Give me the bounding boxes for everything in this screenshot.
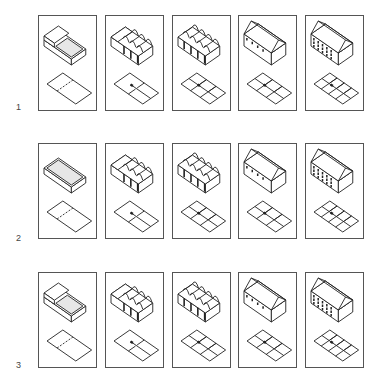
building-mass bbox=[244, 21, 286, 65]
isometric-building-drawing bbox=[39, 16, 96, 110]
diagram-panel-row2-stage2 bbox=[105, 143, 164, 239]
building-mass bbox=[44, 158, 86, 193]
diagram-panel-row1-stage3 bbox=[172, 15, 231, 111]
building-mass bbox=[178, 282, 220, 322]
building-mass bbox=[44, 26, 86, 65]
isometric-building-drawing bbox=[39, 273, 96, 367]
isometric-building-drawing bbox=[239, 144, 296, 238]
diagram-panel-row3-stage2 bbox=[105, 272, 164, 368]
diagram-panel-row1-stage1 bbox=[38, 15, 97, 111]
floor-plan bbox=[47, 201, 92, 232]
row-label-3: 3 bbox=[16, 360, 21, 370]
diagram-panel-row2-stage4 bbox=[238, 143, 297, 239]
floor-plan bbox=[314, 201, 359, 232]
row-label-1: 1 bbox=[16, 102, 21, 112]
diagram-panel-row1-stage4 bbox=[238, 15, 297, 111]
floor-plan bbox=[314, 73, 359, 104]
floor-plan bbox=[47, 330, 92, 361]
floor-plan bbox=[247, 201, 292, 232]
floor-plan bbox=[181, 330, 226, 361]
floor-plan bbox=[114, 330, 159, 361]
isometric-building-drawing bbox=[173, 16, 230, 110]
building-mass bbox=[111, 155, 153, 193]
building-mass bbox=[111, 27, 153, 65]
isometric-building-drawing bbox=[306, 144, 363, 238]
diagram-panel-row2-stage1 bbox=[38, 143, 97, 239]
floor-plan bbox=[247, 330, 292, 361]
building-mass bbox=[311, 21, 353, 65]
isometric-building-drawing bbox=[106, 16, 163, 110]
floor-plan bbox=[114, 201, 159, 232]
diagram-panel-row3-stage3 bbox=[172, 272, 231, 368]
building-mass bbox=[111, 284, 153, 322]
diagram-panel-row3-stage1 bbox=[38, 272, 97, 368]
isometric-building-drawing bbox=[173, 144, 230, 238]
building-mass bbox=[244, 149, 286, 193]
floor-plan bbox=[114, 73, 159, 104]
floor-plan bbox=[247, 73, 292, 104]
floor-plan bbox=[314, 330, 359, 361]
isometric-building-drawing bbox=[306, 16, 363, 110]
diagram-panel-row1-stage5 bbox=[305, 15, 364, 111]
isometric-building-drawing bbox=[106, 144, 163, 238]
row-label-2: 2 bbox=[16, 233, 21, 243]
building-mass bbox=[311, 149, 353, 193]
floor-plan bbox=[47, 73, 92, 104]
floor-plan bbox=[181, 73, 226, 104]
isometric-building-drawing bbox=[39, 144, 96, 238]
diagram-panel-row2-stage5 bbox=[305, 143, 364, 239]
diagram-panel-row2-stage3 bbox=[172, 143, 231, 239]
diagram-panel-row1-stage2 bbox=[105, 15, 164, 111]
isometric-building-drawing bbox=[239, 16, 296, 110]
building-mass bbox=[178, 153, 220, 193]
isometric-building-drawing bbox=[173, 273, 230, 367]
diagram-panel-row3-stage5 bbox=[305, 272, 364, 368]
isometric-building-drawing bbox=[239, 273, 296, 367]
building-mass bbox=[311, 278, 353, 322]
isometric-building-drawing bbox=[106, 273, 163, 367]
building-mass bbox=[178, 25, 220, 65]
building-mass bbox=[244, 278, 286, 322]
floor-plan bbox=[181, 201, 226, 232]
building-mass bbox=[44, 283, 86, 322]
diagram-panel-row3-stage4 bbox=[238, 272, 297, 368]
isometric-building-drawing bbox=[306, 273, 363, 367]
